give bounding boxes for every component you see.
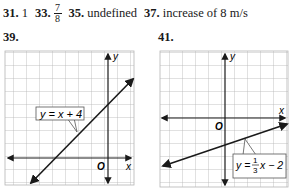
origin-label: O [97,161,105,172]
x-axis-label: x [278,105,285,116]
origin-label: O [215,121,223,132]
svg-text:y =: y = [235,159,250,171]
x-axis-label: x [125,161,132,172]
svg-text:3: 3 [253,166,258,175]
y-axis-label: y [112,51,119,62]
graph-41: y = 1 3 x − 2 y x O [160,51,288,187]
y-axis-label: y [229,51,236,62]
graphs-canvas: y = x + 4 y x O y = 1 3 x − 2 y x O [0,0,292,195]
equation-39: y = x + 4 [39,108,82,120]
svg-text:x − 2: x − 2 [259,159,283,171]
svg-text:1: 1 [253,156,258,165]
graph-39: y = x + 4 y x O [5,51,134,185]
